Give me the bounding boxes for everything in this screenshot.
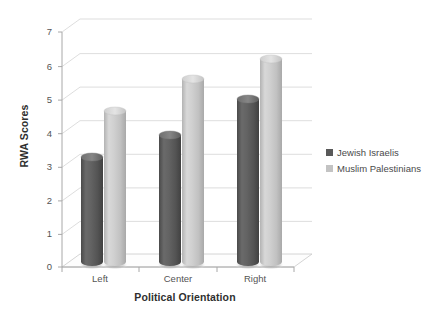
legend-item-muslim-palestinians[interactable]: Muslim Palestinians <box>326 161 436 176</box>
y-tick-label-1: 1 <box>30 229 52 239</box>
chart-legend: Jewish Israelis Muslim Palestinians <box>326 145 436 177</box>
y-tick-label-0: 0 <box>30 262 52 272</box>
bar-left-jewish-israelis[interactable] <box>81 153 103 266</box>
x-tick-label-right: Right <box>220 273 290 284</box>
legend-swatch-icon <box>326 165 333 172</box>
x-tick-label-left: Left <box>65 273 135 284</box>
y-tick-label-2: 2 <box>30 196 52 206</box>
chart-container: 7 6 5 4 3 2 1 0 Left Center Right RWA Sc… <box>0 0 437 315</box>
legend-swatch-icon <box>326 149 333 156</box>
y-tick-label-5: 5 <box>30 95 52 105</box>
bar-right-jewish-israelis[interactable] <box>237 95 259 266</box>
bar-right-muslim-palestinians[interactable] <box>260 55 282 266</box>
bar-center-muslim-palestinians[interactable] <box>182 75 204 266</box>
x-tick-label-center: Center <box>143 273 213 284</box>
x-axis-title: Political Orientation <box>60 291 310 303</box>
legend-item-jewish-israelis[interactable]: Jewish Israelis <box>326 145 436 160</box>
legend-label: Muslim Palestinians <box>337 163 421 174</box>
legend-label: Jewish Israelis <box>337 147 399 158</box>
y-tick-label-6: 6 <box>30 62 52 72</box>
y-tick-label-4: 4 <box>30 129 52 139</box>
bar-center-jewish-israelis[interactable] <box>159 131 181 266</box>
y-tick-label-3: 3 <box>30 162 52 172</box>
value-axis <box>58 32 62 267</box>
bar-group-center <box>157 75 206 270</box>
bar-left-muslim-palestinians[interactable] <box>104 107 126 266</box>
y-tick-label-7: 7 <box>30 27 52 37</box>
y-axis-title: RWA Scores <box>18 91 30 181</box>
